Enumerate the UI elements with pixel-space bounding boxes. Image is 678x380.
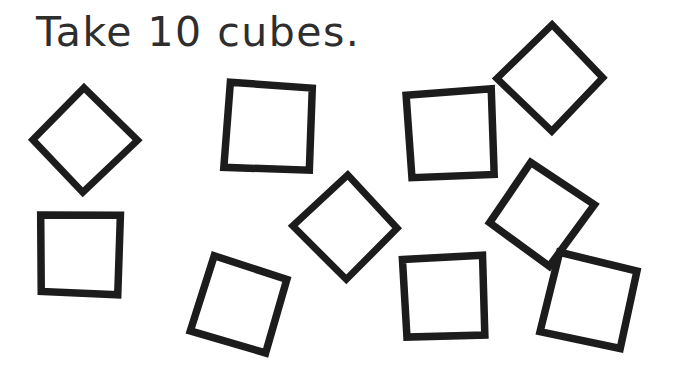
shape-square-10	[540, 252, 638, 350]
shapes-canvas	[0, 0, 678, 380]
shape-square-4	[497, 24, 605, 132]
shape-square-3	[406, 89, 496, 179]
shape-square-1	[31, 87, 138, 194]
shape-square-8	[190, 256, 288, 354]
worksheet-page: Take 10 cubes.	[0, 0, 678, 380]
shape-square-6	[293, 174, 399, 280]
shape-square-7	[488, 161, 594, 267]
shape-square-5	[39, 214, 120, 295]
shape-square-9	[402, 255, 485, 338]
shape-square-2	[224, 82, 314, 172]
